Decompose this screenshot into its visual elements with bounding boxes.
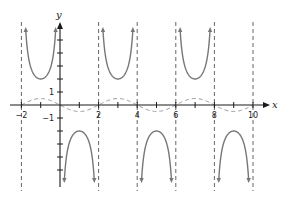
y-tick-label: 1 — [49, 88, 54, 97]
x-tick-label: 2 — [96, 111, 101, 120]
arrowhead-icon — [92, 178, 96, 183]
arrowhead-icon — [169, 178, 173, 183]
arrowhead-icon — [101, 27, 105, 32]
arrowhead-icon — [178, 27, 182, 32]
y-tick-label: −1 — [42, 114, 54, 123]
x-axis-label: x — [272, 99, 278, 110]
x-tick-label: 4 — [135, 111, 140, 120]
cosecant-branch — [219, 131, 249, 180]
arrowhead-icon — [62, 178, 66, 183]
arrowhead-icon — [24, 27, 28, 32]
arrowhead-icon — [217, 178, 221, 183]
x-axis-arrow-icon — [263, 102, 270, 108]
x-tick-label: −2 — [16, 111, 28, 120]
x-tick-label: 8 — [212, 111, 217, 120]
cosecant-branch — [180, 30, 210, 79]
y-axis-label: y — [55, 9, 62, 20]
y-axis-arrow-icon — [57, 22, 63, 29]
arrowhead-icon — [131, 27, 135, 32]
axes: x y — [10, 9, 278, 187]
cosecant-branch — [142, 131, 172, 180]
arrowhead-icon — [53, 27, 57, 32]
arrowhead-icon — [208, 27, 212, 32]
cosecant-branch — [103, 30, 133, 79]
cosecant-graph: x y −22468101−1 — [0, 0, 287, 201]
x-tick-label: 10 — [248, 111, 258, 120]
arrowhead-icon — [246, 178, 250, 183]
cosecant-branch — [64, 131, 94, 180]
cosecant-branch — [26, 30, 56, 79]
arrowhead-icon — [139, 178, 143, 183]
x-tick-label: 6 — [173, 111, 178, 120]
